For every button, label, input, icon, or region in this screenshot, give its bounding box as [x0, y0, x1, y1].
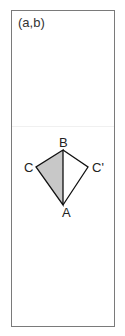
shaded-triangle-bca: [36, 150, 63, 205]
kite-diagram: B C A C': [0, 0, 125, 336]
point-label-c: C: [24, 160, 33, 175]
point-label-b: B: [59, 135, 68, 150]
point-label-a: A: [62, 205, 71, 220]
point-label-c-prime: C': [92, 160, 104, 175]
triangle-bc-prime-a: [63, 150, 88, 205]
